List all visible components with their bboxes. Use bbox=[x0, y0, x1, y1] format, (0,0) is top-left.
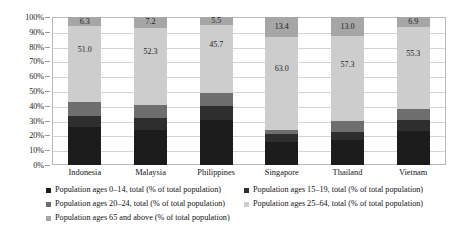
bar-segment-value-label: 6.3 bbox=[80, 18, 90, 26]
bar-segment-value-label: 7.2 bbox=[146, 18, 156, 26]
bars-layer: 51.06.352.37.245.75.563.013.457.313.055.… bbox=[52, 17, 446, 165]
y-axis-tick-label: 60% bbox=[29, 72, 44, 81]
legend-item[interactable]: Population ages 25–64, total (% of total… bbox=[244, 200, 423, 208]
bar-segment[interactable]: 57.3 bbox=[331, 36, 364, 121]
y-axis-tick-mark bbox=[45, 17, 50, 18]
bar-segment-value-label: 45.7 bbox=[209, 41, 223, 49]
bar-group: 52.37.2 bbox=[134, 17, 167, 165]
x-axis-category-label: Malaysia bbox=[135, 168, 166, 177]
legend-label: Population ages 0–14, total (% of total … bbox=[55, 186, 221, 194]
bar-group: 45.75.5 bbox=[200, 17, 233, 165]
y-axis-tick-mark bbox=[45, 76, 50, 77]
bar-segment[interactable] bbox=[68, 127, 101, 165]
legend-swatch-icon bbox=[244, 202, 249, 207]
bar-segment[interactable] bbox=[331, 140, 364, 165]
y-axis-tick-label: 80% bbox=[29, 42, 44, 51]
bar-segment[interactable]: 13.0 bbox=[331, 17, 364, 36]
y-axis-tick-label: 20% bbox=[29, 131, 44, 140]
bar-segment[interactable] bbox=[397, 120, 430, 131]
bar-segment-value-label: 63.0 bbox=[275, 65, 289, 73]
bar-segment[interactable] bbox=[200, 106, 233, 120]
bar-segment[interactable]: 55.3 bbox=[397, 27, 430, 109]
bar-segment[interactable] bbox=[397, 109, 430, 120]
x-axis: IndonesiaMalaysiaPhilippinesSingaporeTha… bbox=[52, 166, 446, 182]
legend-item[interactable]: Population ages 65 and above (% of total… bbox=[46, 214, 230, 222]
bar-segment[interactable] bbox=[134, 118, 167, 130]
x-axis-category-label: Singapore bbox=[265, 168, 299, 177]
stacked-bar[interactable]: 55.36.9 bbox=[397, 17, 430, 165]
y-axis-tick-label: 90% bbox=[29, 27, 44, 36]
y-axis-tick-label: 30% bbox=[29, 116, 44, 125]
bar-segment[interactable]: 45.7 bbox=[200, 25, 233, 93]
bar-group: 55.36.9 bbox=[397, 17, 430, 165]
x-axis-category-label: Philippines bbox=[197, 168, 235, 177]
y-axis-tick-label: 70% bbox=[29, 57, 44, 66]
x-axis-category-label: Indonesia bbox=[69, 168, 102, 177]
bar-segment-value-label: 55.3 bbox=[406, 50, 420, 58]
bar-segment-value-label: 57.3 bbox=[341, 61, 355, 69]
bar-segment[interactable] bbox=[331, 132, 364, 140]
bar-segment[interactable] bbox=[68, 102, 101, 116]
bar-segment[interactable]: 51.0 bbox=[68, 26, 101, 101]
y-axis-tick-mark bbox=[45, 106, 50, 107]
bar-segment[interactable]: 63.0 bbox=[265, 37, 298, 130]
y-axis-tick-label: 10% bbox=[29, 146, 44, 155]
legend-label: Population ages 15–19, total (% of total… bbox=[253, 186, 423, 194]
y-axis-tick-mark bbox=[45, 91, 50, 92]
stacked-bar[interactable]: 57.313.0 bbox=[331, 17, 364, 165]
x-axis-category-label: Vietnam bbox=[399, 168, 427, 177]
bar-segment[interactable] bbox=[265, 142, 298, 165]
y-axis-tick-mark bbox=[45, 121, 50, 122]
bar-segment[interactable]: 52.3 bbox=[134, 28, 167, 105]
legend-swatch-icon bbox=[46, 188, 51, 193]
legend-label: Population ages 20–24, total (% of total… bbox=[55, 200, 225, 208]
legend-label: Population ages 65 and above (% of total… bbox=[55, 214, 230, 222]
legend-swatch-icon bbox=[244, 188, 249, 193]
y-axis-tick-label: 100% bbox=[25, 13, 44, 22]
stacked-bar[interactable]: 45.75.5 bbox=[200, 17, 233, 165]
bar-segment[interactable]: 6.3 bbox=[68, 17, 101, 26]
bar-segment[interactable]: 13.4 bbox=[265, 17, 298, 37]
bar-segment[interactable] bbox=[265, 134, 298, 142]
bar-group: 57.313.0 bbox=[331, 17, 364, 165]
bar-segment[interactable] bbox=[265, 130, 298, 134]
y-axis-tick-mark bbox=[45, 165, 50, 166]
y-axis-tick-mark bbox=[45, 61, 50, 62]
chart-legend: Population ages 0–14, total (% of total … bbox=[46, 186, 450, 228]
legend-item[interactable]: Population ages 0–14, total (% of total … bbox=[46, 186, 221, 194]
legend-swatch-icon bbox=[46, 202, 51, 207]
stacked-bar[interactable]: 52.37.2 bbox=[134, 17, 167, 165]
bar-segment-value-label: 13.4 bbox=[275, 23, 289, 31]
bar-segment[interactable] bbox=[200, 120, 233, 165]
legend-item[interactable]: Population ages 15–19, total (% of total… bbox=[244, 186, 423, 194]
y-axis-tick-mark bbox=[45, 47, 50, 48]
bar-group: 51.06.3 bbox=[68, 17, 101, 165]
bar-segment-value-label: 13.0 bbox=[341, 23, 355, 31]
y-axis: 100%90%80%70%60%50%40%30%20%10%0% bbox=[0, 0, 52, 182]
y-axis-tick-label: 40% bbox=[29, 101, 44, 110]
bar-segment-value-label: 52.3 bbox=[144, 48, 158, 56]
stacked-bar[interactable]: 63.013.4 bbox=[265, 17, 298, 165]
bar-segment[interactable] bbox=[134, 130, 167, 165]
bar-group: 63.013.4 bbox=[265, 17, 298, 165]
bar-segment[interactable]: 5.5 bbox=[200, 17, 233, 25]
bar-segment[interactable] bbox=[68, 116, 101, 127]
legend-item[interactable]: Population ages 20–24, total (% of total… bbox=[46, 200, 225, 208]
bar-segment-value-label: 5.5 bbox=[211, 17, 221, 25]
x-axis-category-label: Thailand bbox=[333, 168, 363, 177]
legend-swatch-icon bbox=[46, 216, 51, 221]
bar-segment[interactable]: 6.9 bbox=[397, 17, 430, 27]
y-axis-tick-label: 50% bbox=[29, 87, 44, 96]
bar-segment-value-label: 6.9 bbox=[408, 18, 418, 26]
bar-segment[interactable] bbox=[134, 105, 167, 118]
bar-segment[interactable] bbox=[331, 121, 364, 132]
bar-segment[interactable]: 7.2 bbox=[134, 17, 167, 28]
y-axis-tick-label: 0% bbox=[33, 161, 44, 170]
bar-segment-value-label: 51.0 bbox=[78, 46, 92, 54]
legend-label: Population ages 25–64, total (% of total… bbox=[253, 200, 423, 208]
y-axis-tick-mark bbox=[45, 32, 50, 33]
stacked-bar-chart: 100%90%80%70%60%50%40%30%20%10%0% 51.06.… bbox=[0, 0, 456, 229]
stacked-bar[interactable]: 51.06.3 bbox=[68, 17, 101, 165]
bar-segment[interactable] bbox=[397, 131, 430, 165]
bar-segment[interactable] bbox=[200, 93, 233, 106]
